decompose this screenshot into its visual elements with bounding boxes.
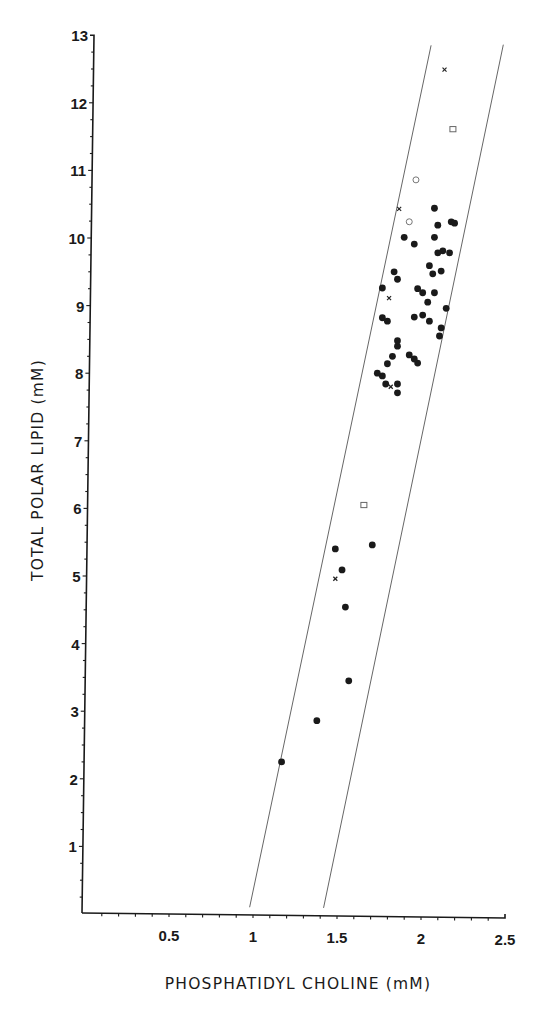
filled-circle-point xyxy=(394,389,401,396)
filled-circle-point xyxy=(419,312,426,319)
scatter-chart: 12345678910111213 0.511.522.5 PHOSPHATID… xyxy=(0,0,545,1017)
y-tick-label: 5 xyxy=(72,568,80,585)
y-tick-label: 7 xyxy=(74,433,82,450)
filled-circle-point xyxy=(278,759,285,766)
y-tick-label: 3 xyxy=(70,703,78,720)
filled-circle-point xyxy=(391,268,398,275)
y-axis-ticks: 12345678910111213 xyxy=(69,27,94,897)
filled-circle-point xyxy=(382,381,389,388)
y-tick-label: 12 xyxy=(70,95,87,112)
x-axis-ticks: 0.511.522.5 xyxy=(102,913,516,948)
x-axis-title: PHOSPHATIDYL CHOLINE (mM) xyxy=(165,975,431,993)
axes xyxy=(82,35,505,918)
x-tick-label: 0.5 xyxy=(159,927,180,944)
filled-circle-point xyxy=(431,234,438,241)
filled-circle-point xyxy=(414,285,421,292)
filled-circle-point xyxy=(451,220,458,227)
filled-circle-point xyxy=(342,604,349,611)
filled-circle-point xyxy=(434,249,441,256)
open-square-point xyxy=(361,502,367,507)
filled-circle-point xyxy=(394,276,401,283)
filled-circle-point xyxy=(429,270,436,277)
cross-point xyxy=(443,68,447,72)
open-circle-point xyxy=(406,219,412,225)
x-tick-label: 1 xyxy=(249,928,257,945)
y-tick-label: 2 xyxy=(69,771,77,788)
y-tick-label: 8 xyxy=(75,365,83,382)
filled-circle-point xyxy=(446,249,453,256)
filled-circle-point xyxy=(411,241,418,248)
cross-point xyxy=(389,385,393,389)
filled-circle-point xyxy=(313,717,320,724)
upper-bound-line xyxy=(324,45,504,908)
filled-circle-point xyxy=(406,352,413,359)
open-square-point xyxy=(450,127,456,132)
filled-circle-point xyxy=(401,234,408,241)
y-tick-label: 10 xyxy=(69,230,86,247)
y-tick-label: 4 xyxy=(71,636,80,653)
filled-circle-point xyxy=(394,337,401,344)
filled-circle-point xyxy=(424,299,431,306)
lower-bound-line xyxy=(250,45,431,907)
x-tick-label: 2.5 xyxy=(495,931,516,948)
y-tick-label: 9 xyxy=(76,298,84,315)
y-tick-label: 11 xyxy=(70,162,86,179)
filled-circle-point xyxy=(332,546,339,553)
open-circle-point xyxy=(413,177,419,183)
y-tick-label: 6 xyxy=(73,500,81,517)
filled-circle-point xyxy=(379,314,386,321)
cross-point xyxy=(397,207,401,211)
filled-circle-point xyxy=(369,542,376,549)
filled-circle-point xyxy=(438,325,445,332)
x-tick-label: 2 xyxy=(417,930,425,947)
y-axis-title: TOTAL POLAR LIPID (mM) xyxy=(29,359,47,582)
filled-circle-point xyxy=(438,268,445,275)
cross-point xyxy=(333,577,337,581)
filled-circle-point xyxy=(443,305,450,312)
filled-circle-point xyxy=(426,262,433,269)
y-tick-label: 1 xyxy=(69,838,77,855)
x-axis xyxy=(82,913,505,918)
y-tick-label: 13 xyxy=(71,27,88,44)
cross-point xyxy=(387,296,391,300)
filled-circle-point xyxy=(389,353,396,360)
filled-circle-point xyxy=(394,381,401,388)
filled-circle-point xyxy=(434,222,441,229)
reference-lines xyxy=(250,45,504,908)
filled-circle-point xyxy=(426,318,433,325)
filled-circle-point xyxy=(374,370,381,377)
filled-circle-point xyxy=(339,567,346,574)
filled-circle-point xyxy=(384,360,391,367)
filled-circle-point xyxy=(431,289,438,296)
x-tick-label: 1.5 xyxy=(327,929,348,946)
filled-circle-point xyxy=(411,314,418,321)
data-points xyxy=(278,68,458,766)
filled-circle-point xyxy=(431,205,438,212)
filled-circle-point xyxy=(345,677,352,684)
filled-circle-point xyxy=(379,285,386,292)
filled-circle-point xyxy=(436,333,443,340)
